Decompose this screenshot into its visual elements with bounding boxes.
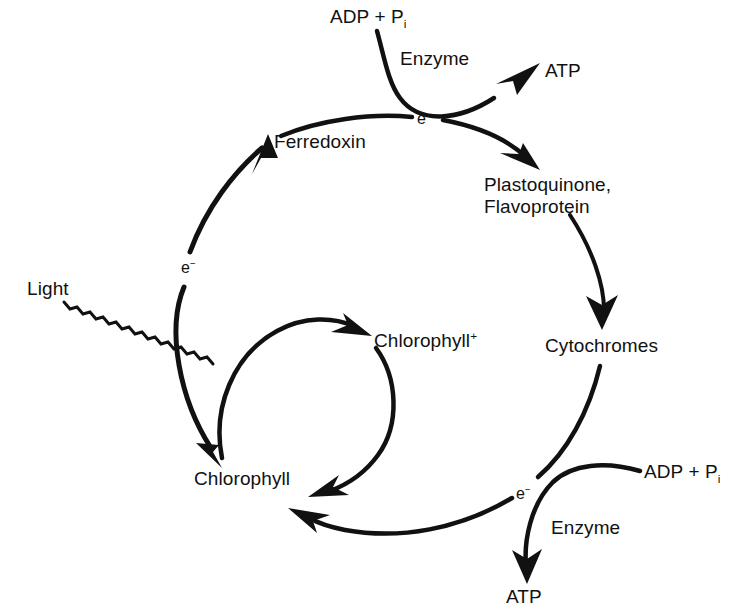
label-atp-top: ATP [545, 60, 581, 81]
label-electron-bottom: e− [516, 483, 531, 504]
diagram-canvas [0, 0, 730, 612]
arrow-adp-to-atp-top [377, 31, 540, 116]
label-chlorophyll-plus: Chlorophyll+ [374, 330, 477, 351]
label-atp-bottom: ATP [506, 586, 542, 607]
photosynthesis-diagram: ADP + Pi Enzyme ATP e− Ferredoxin Plasto… [0, 0, 730, 612]
label-electron-left: e− [181, 257, 196, 278]
arrow-chlorophyll-plus-to-chlorophyll [308, 348, 394, 497]
arrow-light-to-chlorophyll [64, 302, 222, 468]
label-ferredoxin: Ferredoxin [274, 131, 366, 152]
label-adp-pi-bottom: ADP + Pi [644, 461, 720, 482]
label-plastoquinone-flavoprotein: Plastoquinone, Flavoprotein [484, 174, 611, 218]
arrow-chlorophyll-to-chlorophyll-plus [220, 313, 372, 458]
arrow-cytochromes-to-chlorophyll [288, 366, 600, 534]
label-chlorophyll: Chlorophyll [194, 468, 290, 489]
label-electron-top: e− [417, 108, 432, 129]
arrow-plastoquinone-to-cytochromes [570, 215, 618, 330]
label-enzyme-bottom: Enzyme [551, 517, 620, 538]
arrow-chlorophyll-to-ferredoxin [176, 134, 278, 448]
label-light: Light [27, 278, 69, 299]
label-cytochromes: Cytochromes [545, 335, 658, 356]
label-adp-pi-top: ADP + Pi [330, 6, 406, 27]
label-enzyme-top: Enzyme [400, 48, 469, 69]
